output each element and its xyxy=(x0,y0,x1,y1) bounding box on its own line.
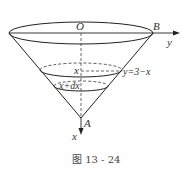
label-section-x: x xyxy=(73,64,79,76)
label-edge-equation: y=3−x xyxy=(122,66,151,77)
cone-left-edge xyxy=(9,33,81,118)
y-axis-arrow-icon xyxy=(173,31,180,36)
label-section-xdx: x+dx xyxy=(58,80,80,91)
cone-diagram: O B y x y=3−x x+dx A x 图 13 - 24 xyxy=(0,0,185,172)
label-a: A xyxy=(83,117,91,129)
label-y-axis: y xyxy=(166,36,172,48)
label-b: B xyxy=(153,20,160,32)
label-x-axis: x xyxy=(71,130,77,142)
label-o: O xyxy=(76,20,84,32)
figure-caption: 图 13 - 24 xyxy=(72,154,120,165)
x-axis-arrow-icon xyxy=(79,128,84,135)
